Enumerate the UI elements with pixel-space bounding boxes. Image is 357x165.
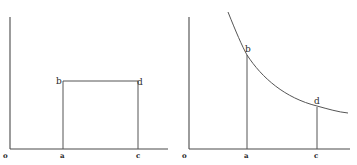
right-label-b: b bbox=[245, 44, 251, 54]
left-label-a: a bbox=[60, 151, 65, 160]
right-label-a: a bbox=[244, 151, 249, 160]
left-label-c: c bbox=[136, 151, 140, 160]
diagram-canvas: o a c b d o a c b d bbox=[0, 0, 357, 165]
left-panel: o a c b d bbox=[3, 17, 168, 160]
left-label-b: b bbox=[56, 76, 62, 86]
right-panel: o a c b d bbox=[182, 12, 350, 160]
right-label-c: c bbox=[314, 151, 318, 160]
right-curve bbox=[228, 12, 348, 113]
right-label-o: o bbox=[182, 151, 187, 160]
left-label-d: d bbox=[137, 77, 143, 87]
right-label-d: d bbox=[314, 96, 320, 106]
left-label-o: o bbox=[3, 151, 8, 160]
